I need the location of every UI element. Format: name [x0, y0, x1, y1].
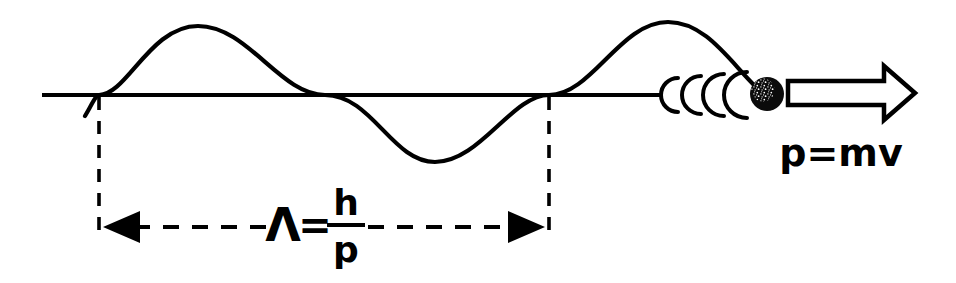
momentum-equation-label: p=mv	[779, 131, 903, 175]
de-broglie-wave-diagram: Λ = h p p=mv	[0, 0, 956, 283]
fraction-denominator-p: p	[333, 229, 359, 270]
fraction-numerator-h: h	[333, 182, 359, 223]
lambda-symbol: Λ	[265, 198, 301, 252]
figure-root: Λ = h p p=mv	[0, 0, 956, 283]
equals-sign: =	[298, 202, 332, 248]
